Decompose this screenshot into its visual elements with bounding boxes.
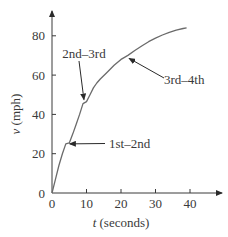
annotation-arrow [129, 58, 164, 78]
y-tick-label: 60 [32, 68, 45, 83]
axis-titles: t (seconds) v (mph) [8, 94, 149, 230]
y-tick-label: 0 [39, 186, 46, 201]
x-tick-label: 30 [149, 196, 162, 211]
annotation-label: 1st–2nd [109, 136, 151, 151]
x-tick-label: 20 [115, 196, 128, 211]
y-tick-label: 40 [32, 107, 45, 122]
y-tick-label: 80 [32, 28, 45, 43]
x-axis-title: t (seconds) [93, 215, 150, 230]
tick-labels: 010203040020406080 [32, 28, 197, 211]
gear-shift-annotations: 1st–2nd2nd–3rd3rd–4th [62, 46, 205, 151]
velocity-time-chart: 010203040020406080 1st–2nd2nd–3rd3rd–4th… [0, 0, 228, 237]
x-tick-label: 40 [184, 196, 197, 211]
y-axis-title: v (mph) [8, 94, 23, 135]
annotation-label: 2nd–3rd [62, 46, 106, 61]
y-tick-label: 20 [32, 146, 45, 161]
x-tick-label: 0 [49, 196, 56, 211]
annotation-label: 3rd–4th [164, 72, 205, 87]
annotation-arrow [79, 61, 84, 100]
x-tick-label: 10 [80, 196, 93, 211]
axes [52, 11, 222, 193]
